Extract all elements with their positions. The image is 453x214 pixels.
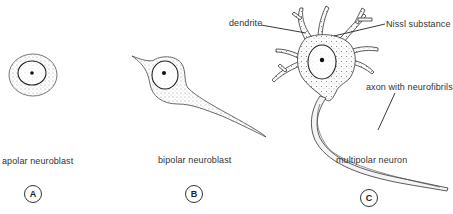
label-axon-with-neurofibrils: axon with neurofibrils	[366, 82, 453, 92]
caption-multipolar-neuron: multipolar neuron	[336, 155, 407, 165]
apolar-neuroblast-drawing	[9, 54, 57, 96]
panel-letter-c: C	[360, 189, 378, 207]
bipolar-neuroblast-drawing	[132, 56, 266, 137]
panel-letter-a: A	[24, 185, 42, 203]
label-nissl-substance: Nissl substance	[386, 19, 451, 29]
caption-apolar-neuroblast: apolar neuroblast	[2, 156, 73, 166]
panel-letter-b: B	[185, 185, 203, 203]
label-dendrite: dendrite	[229, 18, 262, 28]
caption-bipolar-neuroblast: bipolar neuroblast	[158, 155, 231, 165]
